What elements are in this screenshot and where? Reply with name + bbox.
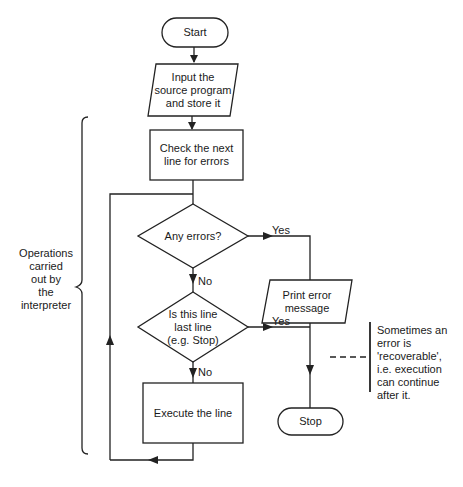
check-label: Check the next line for errors [150, 130, 243, 180]
any-errors-yes-label: Yes [272, 224, 290, 236]
start-label: Start [162, 18, 228, 47]
input-label: Input the source program and store it [150, 64, 236, 116]
last-line-no-label: No [198, 366, 212, 378]
interpreter-brace-label: Operations carried out by the interprete… [14, 247, 78, 312]
last-line-label: Is this line last line (e.g. Stop) [150, 305, 236, 349]
any-errors-no-label: No [198, 275, 212, 287]
last-line-yes-label: Yes [272, 315, 290, 327]
stop-label: Stop [278, 408, 343, 435]
execute-label: Execute the line [143, 383, 243, 443]
recoverable-error-note: Sometimes an error is 'recoverable', i.e… [377, 324, 463, 402]
any-errors-label: Any errors? [145, 226, 241, 246]
